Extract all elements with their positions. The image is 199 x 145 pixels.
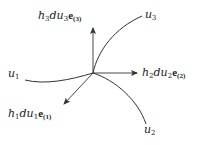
u2-curve — [93, 73, 146, 124]
u1-curve — [25, 73, 93, 82]
u3-curve — [93, 16, 142, 73]
e3-vector-label: h3du3e(3) — [38, 10, 81, 21]
u3-curve-label: u3 — [145, 9, 157, 20]
e1-vector-arrow — [64, 73, 93, 104]
u2-curve-label: u2 — [144, 124, 156, 135]
e1-vector-label: h1du1e(1) — [8, 108, 51, 119]
u1-curve-label: u1 — [8, 68, 20, 79]
e2-vector-label: h2du2e(2) — [142, 67, 185, 78]
